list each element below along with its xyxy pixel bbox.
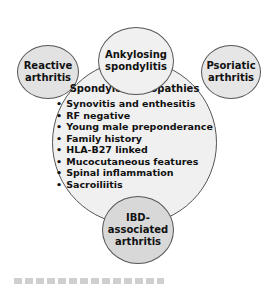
ankylosing-label-1: Ankylosing xyxy=(105,49,167,61)
ibd-label-2: arthritis xyxy=(115,236,161,248)
feature-list: Synovitis and enthesitis RF negative You… xyxy=(56,98,213,190)
psoriatic-arthritis-circle: Psoriatic arthritis xyxy=(201,45,261,99)
feature-item: Spinal inflammation xyxy=(56,167,213,179)
feature-item: Synovitis and enthesitis xyxy=(56,98,213,110)
feature-item: Young male preponderance xyxy=(56,121,213,133)
reactive-label-2: arthritis xyxy=(25,72,71,84)
feature-item: Sacroiliitis xyxy=(56,179,213,191)
ankylosing-label-2: spondylitis xyxy=(105,61,167,73)
figure-caption-clipped xyxy=(14,278,164,284)
ibd-arthritis-circle: IBD-associated arthritis xyxy=(102,196,174,264)
ibd-label-1: IBD-associated xyxy=(103,212,173,236)
psoriatic-label-1: Psoriatic xyxy=(206,60,255,72)
feature-item: Family history xyxy=(56,133,213,145)
feature-item: RF negative xyxy=(56,110,213,122)
feature-item: Mucocutaneous features xyxy=(56,156,213,168)
feature-item: HLA-B27 linked xyxy=(56,144,213,156)
ankylosing-spondylitis-circle: Ankylosing spondylitis xyxy=(98,27,174,95)
reactive-label-1: Reactive xyxy=(24,60,73,72)
psoriatic-label-2: arthritis xyxy=(208,72,254,84)
